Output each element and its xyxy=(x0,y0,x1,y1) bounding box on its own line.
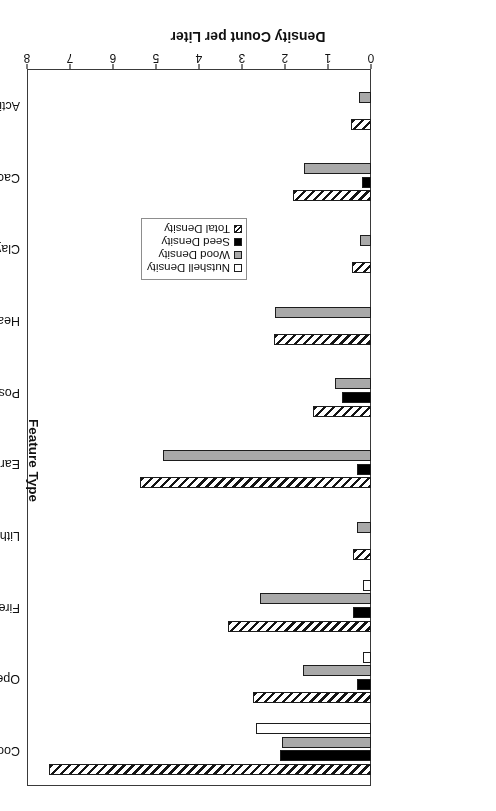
bar-group xyxy=(27,571,371,643)
bar-wood xyxy=(260,593,371,604)
bar-wood xyxy=(163,450,371,461)
value-axis-tick-label: 4 xyxy=(184,51,214,65)
bar-total xyxy=(253,692,371,703)
bar-wood xyxy=(304,163,371,174)
bar-group xyxy=(27,714,371,786)
value-axis-tick-label: 0 xyxy=(356,51,386,65)
bar-seed xyxy=(280,750,371,761)
category-label: Lithic Dump xyxy=(0,529,20,543)
category-label: Postmold xyxy=(0,386,20,400)
category-label: Earth Oven xyxy=(0,457,20,471)
bar-wood xyxy=(303,665,371,676)
bar-wood xyxy=(335,378,371,389)
bar-total xyxy=(353,549,371,560)
bar-total xyxy=(274,334,371,345)
bar-group xyxy=(27,141,371,213)
value-axis-tick-label: 7 xyxy=(55,51,85,65)
category-label: Open Basin xyxy=(0,672,20,686)
bar-group xyxy=(27,643,371,715)
bar-group xyxy=(27,428,371,500)
bar-wood xyxy=(282,737,371,748)
category-label: Cooking/Refuse xyxy=(0,744,20,758)
category-label: Hearth xyxy=(0,314,20,328)
bar-total xyxy=(228,621,371,632)
bar-seed xyxy=(362,177,371,188)
category-label: Cache xyxy=(0,171,20,185)
bar-total xyxy=(352,262,371,273)
category-label: Activity Area xyxy=(0,99,20,113)
value-axis-tick-label: 5 xyxy=(141,51,171,65)
bar-wood xyxy=(359,92,371,103)
value-axis-title: Density Count per Liter xyxy=(0,29,496,45)
bar-total xyxy=(293,190,371,201)
bar-nutshell xyxy=(256,723,371,734)
bar-group xyxy=(27,284,371,356)
bar-group xyxy=(27,69,371,141)
bar-total xyxy=(140,477,371,488)
bar-wood xyxy=(357,522,371,533)
value-axis-tick-label: 3 xyxy=(227,51,257,65)
bar-group xyxy=(27,499,371,571)
bar-group xyxy=(27,212,371,284)
bar-total xyxy=(351,119,371,130)
category-label: Clay Dump xyxy=(0,242,20,256)
bar-total xyxy=(49,764,371,775)
bar-nutshell xyxy=(363,580,371,591)
bar-total xyxy=(313,406,371,417)
bar-wood xyxy=(275,307,371,318)
value-axis-tick-label: 8 xyxy=(12,51,42,65)
bar-wood xyxy=(360,235,371,246)
chart-figure: 012345678 Density Count per Liter Cookin… xyxy=(0,0,496,811)
bar-seed xyxy=(353,607,371,618)
bar-seed xyxy=(357,464,371,475)
value-axis-tick-label: 6 xyxy=(98,51,128,65)
bar-nutshell xyxy=(363,652,371,663)
bar-group xyxy=(27,356,371,428)
value-axis-tick-label: 1 xyxy=(313,51,343,65)
bar-seed xyxy=(342,392,371,403)
category-label: Fire Stain xyxy=(0,601,20,615)
value-axis-tick-label: 2 xyxy=(270,51,300,65)
bar-seed xyxy=(357,679,371,690)
